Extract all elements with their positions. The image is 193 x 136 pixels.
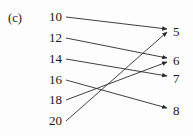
codomain-node-6: 6 [173, 54, 180, 67]
mapping-diagram-figure: (c) 101214161820 5678 [0, 0, 193, 136]
codomain-node-5: 5 [173, 25, 180, 38]
codomain-node-8: 8 [173, 104, 180, 117]
arrow-12-to-6 [66, 38, 167, 58]
domain-node-10: 10 [28, 10, 62, 23]
domain-node-20: 20 [28, 114, 62, 127]
arrow-10-to-5 [66, 17, 167, 29]
domain-node-12: 12 [28, 31, 62, 44]
domain-node-14: 14 [28, 52, 62, 65]
codomain-node-7: 7 [173, 72, 180, 85]
domain-node-16: 16 [28, 73, 62, 86]
arrow-20-to-5 [66, 32, 167, 121]
domain-node-18: 18 [28, 93, 62, 106]
arrow-group [66, 17, 167, 121]
